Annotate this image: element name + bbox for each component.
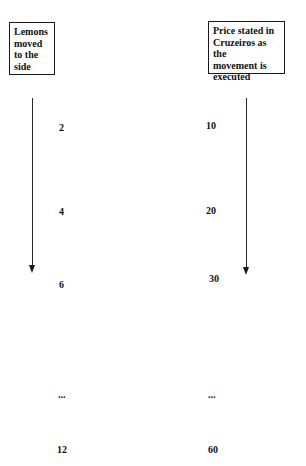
price-value: 60 [208,445,218,455]
price-header-line: Cruzeiros as the [213,37,280,60]
lemons-value: 6 [59,280,64,290]
price-value: 30 [209,274,219,284]
lemons-header-line: side [14,61,50,73]
arrow-down-icon [243,267,249,275]
price-value: 20 [206,206,216,216]
price-header-line: executed [213,71,280,83]
price-header-line: Price stated in [213,25,280,37]
lemons-down-arrow-shaft [32,98,33,266]
lemons-value: 12 [57,445,67,455]
price-header-box: Price stated in Cruzeiros as the movemen… [208,21,285,74]
lemons-value: 2 [59,123,64,133]
price-header-line: movement is [213,60,280,72]
lemons-header-line: to the [14,49,50,61]
arrow-down-icon [29,265,35,273]
lemons-value: 4 [59,207,64,217]
price-down-arrow-shaft [246,98,247,268]
price-ellipsis: ... [208,390,216,400]
price-value: 10 [206,121,216,131]
lemons-header-line: moved [14,38,50,50]
lemons-ellipsis: ... [58,390,66,400]
lemons-header-box: Lemons moved to the side [9,22,55,75]
lemons-header-line: Lemons [14,26,50,38]
